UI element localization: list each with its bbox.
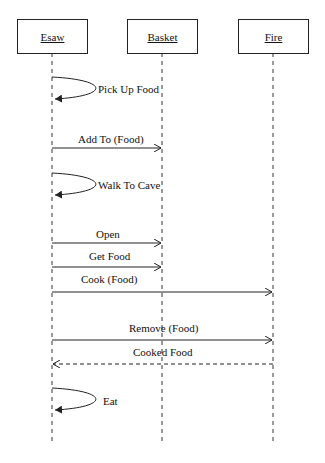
participant-label: Esaw: [41, 31, 65, 43]
message-label: Eat: [103, 395, 118, 407]
message-label: Open: [96, 228, 120, 240]
participant-label: Fire: [265, 31, 283, 43]
self-message-walk-to-cave: [52, 173, 96, 195]
message-label: Pick Up Food: [98, 83, 159, 95]
participant-basket: Basket: [127, 19, 198, 54]
message-label: Cook (Food): [81, 273, 138, 285]
participant-label: Basket: [148, 31, 178, 43]
self-message-eat: [52, 388, 96, 410]
message-label: Get Food: [89, 250, 130, 262]
self-message-pick-up-food: [52, 77, 96, 99]
message-label: Walk To Cave: [98, 179, 160, 191]
message-label: Remove (Food): [129, 322, 198, 334]
message-label: Cooked Food: [133, 346, 193, 358]
participant-fire: Fire: [238, 19, 309, 54]
message-label: Add To (Food): [78, 133, 144, 145]
sequence-diagram-canvas: [0, 0, 325, 463]
participant-esaw: Esaw: [17, 19, 88, 54]
